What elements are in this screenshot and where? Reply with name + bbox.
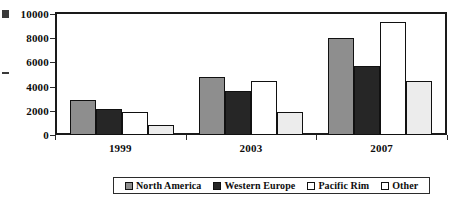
x-axis-tick-mark xyxy=(447,135,448,140)
bar-other-2007 xyxy=(406,81,432,135)
x-axis-labels: 199920032007 xyxy=(55,143,447,159)
y-axis: 0200040006000800010000 xyxy=(0,0,49,205)
bar-pacific-rim-2003 xyxy=(251,81,277,135)
legend-swatch-icon xyxy=(307,182,315,190)
x-axis-ticks xyxy=(55,135,447,141)
legend-item-north-america[interactable]: North America xyxy=(125,181,201,191)
bar-other-2003 xyxy=(277,112,303,135)
y-axis-tick-label: 2000 xyxy=(0,106,49,117)
legend-label: Western Europe xyxy=(224,181,295,191)
bar-north-america-2007 xyxy=(328,38,354,135)
y-axis-tick-label: 6000 xyxy=(0,57,49,68)
bar-group-2003 xyxy=(186,14,315,135)
bars-layer xyxy=(57,14,445,135)
x-axis-category-label: 1999 xyxy=(55,143,186,159)
bar-group-inner xyxy=(328,14,432,135)
chart-legend: North AmericaWestern EuropePacific RimOt… xyxy=(113,177,430,194)
legend-label: Pacific Rim xyxy=(318,181,369,191)
bar-western-europe-2007 xyxy=(354,66,380,135)
bar-chart: 0200040006000800010000 199920032007 Nort… xyxy=(0,0,460,205)
legend-swatch-icon xyxy=(381,182,389,190)
bar-group-1999 xyxy=(57,14,186,135)
y-axis-tick-label: 0 xyxy=(0,130,49,141)
y-axis-tick-label: 8000 xyxy=(0,33,49,44)
bar-group-inner xyxy=(199,14,303,135)
legend-label: North America xyxy=(136,181,201,191)
x-axis-category-label: 2007 xyxy=(316,143,447,159)
bar-other-1999 xyxy=(148,125,174,135)
legend-label: Other xyxy=(392,181,418,191)
bar-pacific-rim-1999 xyxy=(122,112,148,135)
x-axis-tick-mark xyxy=(186,135,187,140)
legend-swatch-icon xyxy=(213,182,221,190)
legend-item-western-europe[interactable]: Western Europe xyxy=(213,181,295,191)
bar-group-2007 xyxy=(316,14,445,135)
x-axis-category-label: 2003 xyxy=(186,143,317,159)
bar-western-europe-1999 xyxy=(96,109,122,135)
y-axis-tick-label: 10000 xyxy=(0,9,49,20)
bar-pacific-rim-2007 xyxy=(380,22,406,135)
legend-item-other[interactable]: Other xyxy=(381,181,418,191)
bar-north-america-2003 xyxy=(199,77,225,135)
bar-north-america-1999 xyxy=(70,100,96,135)
legend-item-pacific-rim[interactable]: Pacific Rim xyxy=(307,181,369,191)
bar-group-inner xyxy=(70,14,174,135)
bar-western-europe-2003 xyxy=(225,91,251,135)
legend-swatch-icon xyxy=(125,182,133,190)
x-axis-tick-mark xyxy=(55,135,56,140)
x-axis-tick-mark xyxy=(316,135,317,140)
y-axis-tick-label: 4000 xyxy=(0,82,49,93)
